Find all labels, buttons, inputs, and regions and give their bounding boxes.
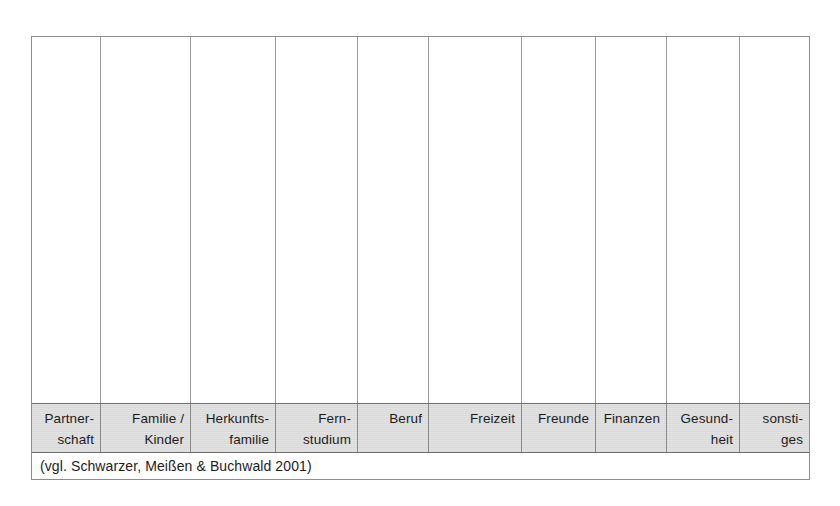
category-label-herkunftsfamilie: Herkunfts- familie xyxy=(191,404,276,452)
plot-column xyxy=(101,37,191,403)
category-label-freunde: Freunde xyxy=(522,404,596,452)
chart-plot-area xyxy=(32,37,809,403)
category-label-beruf: Beruf xyxy=(358,404,429,452)
plot-column xyxy=(596,37,667,403)
category-label-partnerschaft: Partner- schaft xyxy=(32,404,101,452)
category-label-freizeit: Freizeit xyxy=(429,404,522,452)
plot-column xyxy=(358,37,429,403)
plot-column xyxy=(32,37,101,403)
category-label-sonstiges: sonsti- ges xyxy=(740,404,809,452)
plot-column xyxy=(276,37,358,403)
category-axis-labels: Partner- schaft Familie / Kinder Herkunf… xyxy=(32,403,809,453)
plot-column xyxy=(191,37,276,403)
figure-source-caption: (vgl. Schwarzer, Meißen & Buchwald 2001) xyxy=(40,457,312,475)
category-label-gesundheit: Gesund- heit xyxy=(667,404,740,452)
plot-column xyxy=(429,37,522,403)
plot-column xyxy=(667,37,740,403)
figure-source-row: (vgl. Schwarzer, Meißen & Buchwald 2001) xyxy=(32,453,809,479)
chart-figure: Partner- schaft Familie / Kinder Herkunf… xyxy=(31,36,810,480)
scanned-figure-page: Partner- schaft Familie / Kinder Herkunf… xyxy=(0,0,840,506)
category-label-fernstudium: Fern- studium xyxy=(276,404,358,452)
plot-column xyxy=(740,37,809,403)
category-label-finanzen: Finanzen xyxy=(596,404,667,452)
plot-column xyxy=(522,37,596,403)
category-label-familie-kinder: Familie / Kinder xyxy=(101,404,191,452)
